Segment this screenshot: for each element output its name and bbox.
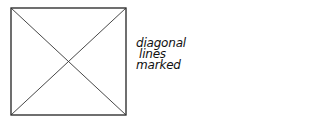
label-line-3: marked bbox=[136, 60, 186, 71]
diagonal-label: diagonal lines marked bbox=[136, 38, 186, 71]
